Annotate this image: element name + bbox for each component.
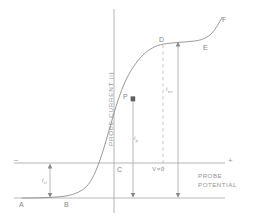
ion-saturation-current-arrow bbox=[48, 164, 53, 198]
probe-current-label: ip bbox=[134, 135, 138, 144]
curve-point-b: B bbox=[64, 201, 69, 208]
electron-saturation-current-arrow bbox=[176, 42, 181, 198]
ion-saturation-current-label: iri bbox=[42, 177, 47, 186]
x-axis-negative-sign: − bbox=[14, 157, 19, 165]
langmuir-probe-iv-figure: PROBE CURRENT (i) PROBE POTENTIAL − + V=… bbox=[0, 0, 269, 222]
ion-saturation-current-subscript: ri bbox=[44, 180, 47, 185]
y-axis-label: PROBE CURRENT (i) bbox=[108, 72, 114, 146]
x-axis-positive-sign: + bbox=[228, 157, 233, 165]
curve-point-p: P bbox=[123, 93, 128, 100]
electron-saturation-current-subscript: es bbox=[168, 89, 173, 94]
point-p-marker bbox=[131, 96, 136, 101]
curve-point-a: A bbox=[19, 201, 24, 208]
probe-current-arrow bbox=[131, 97, 136, 198]
curve-point-e: E bbox=[203, 44, 208, 51]
x-axis-label-line1: PROBE bbox=[198, 172, 222, 180]
curve-point-d: D bbox=[159, 36, 164, 43]
probe-current-subscript: p bbox=[136, 138, 139, 143]
v-zero-label: V=0 bbox=[152, 166, 165, 172]
curve-point-c: C bbox=[117, 166, 122, 173]
x-axis-label-line2: POTENTIAL bbox=[198, 181, 237, 189]
electron-saturation-current-label: ies bbox=[166, 86, 173, 95]
curve-point-f: F bbox=[222, 16, 227, 23]
